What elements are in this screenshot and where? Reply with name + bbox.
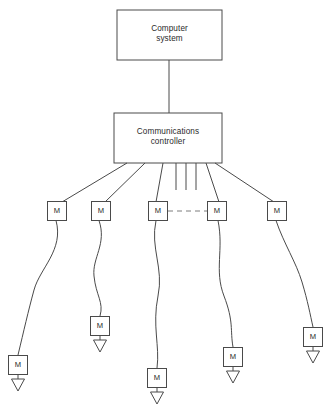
computer-system-box — [117, 10, 222, 60]
telephone-line-1 — [18, 221, 58, 356]
fanout-line-3 — [156, 163, 163, 202]
modem-bottom-5-box — [304, 328, 323, 347]
fanout-line-5 — [215, 163, 274, 202]
modem-top-5-box — [268, 202, 287, 221]
fanout-line-4 — [206, 163, 219, 202]
modem-top-4-box — [208, 202, 227, 221]
telephone-line-2 — [94, 221, 102, 317]
terminal-5-icon — [307, 351, 320, 363]
communications-controller-box — [114, 113, 222, 163]
modem-top-3-box — [149, 202, 168, 221]
modem-bottom-4-box — [224, 348, 243, 367]
telephone-line-3 — [154, 221, 159, 369]
network-diagram: Computer system Communications controlle… — [0, 0, 336, 411]
modem-bottom-2-box — [91, 317, 110, 336]
terminal-3-icon — [151, 392, 164, 404]
telephone-line-4 — [218, 221, 233, 348]
telephone-line-5 — [276, 221, 313, 328]
modem-top-1-box — [48, 202, 67, 221]
diagram-canvas — [0, 0, 336, 411]
modem-top-2-box — [92, 202, 111, 221]
terminal-2-icon — [94, 340, 107, 352]
modem-bottom-1-box — [9, 356, 28, 375]
terminal-1-icon — [12, 379, 25, 391]
fanout-line-2 — [105, 163, 145, 202]
terminal-4-icon — [227, 371, 240, 383]
fanout-line-1 — [62, 163, 127, 202]
modem-bottom-3-box — [148, 369, 167, 388]
